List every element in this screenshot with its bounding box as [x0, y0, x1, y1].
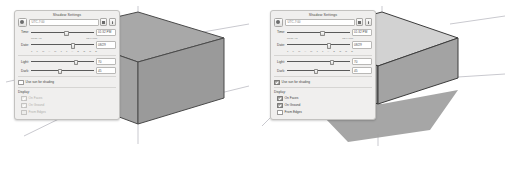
sun-globe-icon[interactable] [18, 18, 27, 27]
display-shadows-icon[interactable] [100, 18, 107, 26]
dialog-title-a: Shadow Settings [15, 11, 119, 18]
date-value-b[interactable]: 08/29 [352, 41, 373, 48]
time-slider-knob-b[interactable] [320, 31, 324, 37]
month-tick-10: N [89, 50, 91, 53]
timezone-row-b: UTC-7:00 [274, 18, 372, 27]
light-value-a[interactable]: 70 [96, 58, 117, 65]
dark-slider-a[interactable] [31, 68, 94, 73]
time-end-label-a: 08:44 PM [86, 37, 97, 40]
from-edges-checkbox-a[interactable] [21, 110, 27, 116]
timezone-field-b[interactable]: UTC-7:00 [285, 19, 355, 26]
divider-a [18, 55, 116, 56]
pin-icon[interactable] [365, 18, 372, 26]
time-row-b: Time: 01:32 PM [274, 29, 372, 36]
panel-b: Shadow Settings UTC-7:00 Time: [256, 0, 511, 150]
divider2-b [274, 76, 372, 77]
month-tick-9: O [339, 50, 341, 53]
display-option-on-faces-b[interactable]: On Faces [277, 96, 372, 102]
time-slider-a[interactable] [31, 30, 94, 35]
timezone-field-a[interactable]: UTC-7:00 [29, 19, 99, 26]
month-tick-8: S [77, 50, 79, 53]
month-tick-5: J [317, 50, 318, 53]
light-row-b: Light: 70 [274, 58, 372, 65]
month-tick-0: J [287, 50, 288, 53]
time-start-label-a: 06:00 AM [31, 37, 42, 40]
use-sun-for-shading-row-a[interactable]: Use sun for shading [18, 80, 116, 86]
dark-value-a[interactable]: 45 [96, 67, 117, 74]
month-tick-5: J [61, 50, 62, 53]
display-option-on-ground-a[interactable]: On Ground [21, 103, 116, 109]
month-tick-7: A [71, 50, 73, 53]
sun-globe-icon[interactable] [274, 18, 283, 27]
timezone-row-a: UTC-7:00 [18, 18, 116, 27]
time-label-a: Time: [18, 30, 29, 34]
axis-red-b [450, 16, 505, 24]
time-endpoints-a: 06:00 AM 08:44 PM [31, 37, 116, 40]
on-ground-checkbox-b[interactable] [277, 103, 283, 109]
light-slider-b[interactable] [287, 59, 350, 64]
date-label-a: Date: [18, 43, 29, 47]
display-options-a: On Faces On Ground From Edges [18, 96, 116, 116]
light-label-b: Light: [274, 60, 285, 64]
dark-value-b[interactable]: 45 [352, 67, 373, 74]
on-faces-checkbox-a[interactable] [21, 96, 27, 102]
use-sun-checkbox-a[interactable] [18, 80, 24, 86]
time-value-a[interactable]: 01:32 PM [96, 29, 117, 36]
shadow-settings-dialog-a[interactable]: Shadow Settings UTC-7:00 Time: [14, 10, 120, 120]
figure-root: Shadow Settings UTC-7:00 Time: [0, 0, 511, 177]
divider-b [274, 55, 372, 56]
light-slider-a[interactable] [31, 59, 94, 64]
axis-red-a [203, 24, 249, 32]
light-slider-knob-b[interactable] [330, 60, 334, 66]
date-month-ticks-a: JFMAMJJASOND [31, 50, 116, 53]
month-tick-2: M [298, 50, 300, 53]
date-slider-b[interactable] [287, 42, 350, 47]
display-shadows-icon[interactable] [356, 18, 363, 26]
light-value-b[interactable]: 70 [352, 58, 373, 65]
dark-row-b: Dark: 45 [274, 67, 372, 74]
use-sun-for-shading-row-b[interactable]: Use sun for shading [274, 80, 372, 86]
time-endpoints-b: 06:00 AM 08:44 PM [287, 37, 372, 40]
date-value-a[interactable]: 08/29 [96, 41, 117, 48]
month-tick-4: M [310, 50, 312, 53]
viewport-b[interactable]: Shadow Settings UTC-7:00 Time: [262, 4, 505, 146]
month-tick-7: A [327, 50, 329, 53]
display-option-from-edges-a[interactable]: From Edges [21, 110, 116, 116]
display-options-b: On Faces On Ground From Edges [274, 96, 372, 116]
use-sun-checkbox-b[interactable] [274, 80, 280, 86]
display-option-on-ground-b[interactable]: On Ground [277, 103, 372, 109]
date-slider-knob-b[interactable] [327, 43, 331, 49]
time-slider-knob-a[interactable] [64, 31, 68, 37]
light-label-a: Light: [18, 60, 29, 64]
month-tick-6: J [66, 50, 67, 53]
on-ground-checkbox-a[interactable] [21, 103, 27, 109]
dark-label-a: Dark: [18, 69, 29, 73]
dark-slider-b[interactable] [287, 68, 350, 73]
use-sun-label-b: Use sun for shading [282, 80, 310, 84]
divider3-b [274, 87, 372, 88]
dark-slider-knob-a[interactable] [58, 69, 62, 75]
on-faces-label-a: On Faces [29, 96, 43, 100]
on-faces-checkbox-b[interactable] [277, 96, 283, 102]
time-slider-b[interactable] [287, 30, 350, 35]
date-slider-knob-a[interactable] [71, 43, 75, 49]
dialog-title-b: Shadow Settings [271, 11, 375, 18]
from-edges-label-a: From Edges [29, 110, 46, 114]
display-section-label-b: Display: [274, 90, 372, 94]
date-slider-a[interactable] [31, 42, 94, 47]
on-ground-label-a: On Ground [29, 103, 45, 107]
time-value-b[interactable]: 01:32 PM [352, 29, 373, 36]
light-slider-knob-a[interactable] [74, 60, 78, 66]
month-tick-2: M [42, 50, 44, 53]
dark-slider-knob-b[interactable] [314, 69, 318, 75]
viewport-a[interactable]: Shadow Settings UTC-7:00 Time: [6, 4, 249, 146]
from-edges-label-b: From Edges [285, 110, 302, 114]
pin-icon[interactable] [109, 18, 116, 26]
from-edges-checkbox-b[interactable] [277, 110, 283, 116]
month-tick-1: F [292, 50, 293, 53]
time-label-b: Time: [274, 30, 285, 34]
display-section-label-a: Display: [18, 90, 116, 94]
display-option-on-faces-a[interactable]: On Faces [21, 96, 116, 102]
display-option-from-edges-b[interactable]: From Edges [277, 110, 372, 116]
shadow-settings-dialog-b[interactable]: Shadow Settings UTC-7:00 Time: [270, 10, 376, 120]
